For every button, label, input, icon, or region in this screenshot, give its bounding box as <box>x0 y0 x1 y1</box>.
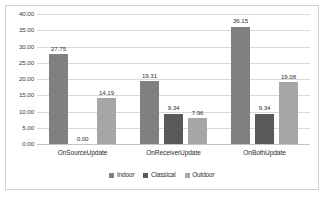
bar-value-label: 7.96 <box>192 110 204 116</box>
bar[interactable] <box>255 114 274 144</box>
x-tick-label: OnBothUpdate <box>219 150 310 162</box>
y-tick-label: 5.00 <box>8 125 34 131</box>
x-axis: OnSourceUpdateOnReceiverUpdateOnBothUpda… <box>37 150 310 162</box>
bar-group: 36.159.3419.08 <box>219 14 310 144</box>
bar-slot: 19.08 <box>279 14 298 144</box>
chart-plot-wrapper: 0.005.0010.0015.0020.0025.0030.0035.0040… <box>6 6 318 189</box>
bar[interactable] <box>279 82 298 144</box>
legend-label: Classical <box>151 172 176 178</box>
bar-value-label: 27.75 <box>51 46 66 52</box>
bar-value-label: 19.31 <box>142 73 157 79</box>
bar[interactable] <box>188 118 207 144</box>
y-tick-label: 25.00 <box>8 60 34 66</box>
bar[interactable] <box>49 54 68 144</box>
bar-group: 27.750.0014.19 <box>37 14 128 144</box>
y-tick-label: 0.00 <box>8 141 34 147</box>
bar-slot: 9.34 <box>164 14 183 144</box>
bar-slot: 36.15 <box>231 14 250 144</box>
chart-legend: IndoorClassicalOutdoor <box>6 169 318 181</box>
bar-groups: 27.750.0014.1919.319.347.9636.159.3419.0… <box>37 14 310 144</box>
x-tick-label: OnSourceUpdate <box>37 150 128 162</box>
bar-value-label: 9.34 <box>168 105 180 111</box>
legend-item[interactable]: Outdoor <box>185 172 215 178</box>
legend-item[interactable]: Indoor <box>109 172 134 178</box>
y-tick-label: 20.00 <box>8 76 34 82</box>
bar-slot: 0.00 <box>73 14 92 144</box>
y-tick-label: 35.00 <box>8 27 34 33</box>
y-axis: 0.005.0010.0015.0020.0025.0030.0035.0040… <box>8 14 34 144</box>
bar-value-label: 19.08 <box>281 74 296 80</box>
bar-value-label: 9.34 <box>259 105 271 111</box>
axis-baseline <box>37 144 310 145</box>
bar-slot: 27.75 <box>49 14 68 144</box>
plot-area: 27.750.0014.1919.319.347.9636.159.3419.0… <box>37 14 310 144</box>
bar[interactable] <box>164 114 183 144</box>
bar-slot: 9.34 <box>255 14 274 144</box>
y-tick-label: 30.00 <box>8 43 34 49</box>
bar-slot: 19.31 <box>140 14 159 144</box>
y-tick-label: 40.00 <box>8 11 34 17</box>
legend-label: Outdoor <box>192 172 214 178</box>
legend-swatch-icon <box>143 173 148 178</box>
legend-label: Indoor <box>117 172 135 178</box>
x-tick-label: OnReceiverUpdate <box>128 150 219 162</box>
chart-frame: 0.005.0010.0015.0020.0025.0030.0035.0040… <box>5 5 319 190</box>
bar-slot: 7.96 <box>188 14 207 144</box>
legend-swatch-icon <box>109 173 114 178</box>
bar-group: 19.319.347.96 <box>128 14 219 144</box>
bar-value-label: 0.00 <box>77 136 89 142</box>
y-tick-label: 15.00 <box>8 92 34 98</box>
legend-item[interactable]: Classical <box>143 172 175 178</box>
legend-swatch-icon <box>185 173 190 178</box>
bar[interactable] <box>231 27 250 144</box>
bar-value-label: 14.19 <box>99 90 114 96</box>
bar-slot: 14.19 <box>97 14 116 144</box>
y-tick-label: 10.00 <box>8 108 34 114</box>
bar-value-label: 36.15 <box>233 18 248 24</box>
bar[interactable] <box>140 81 159 144</box>
bar[interactable] <box>97 98 116 144</box>
